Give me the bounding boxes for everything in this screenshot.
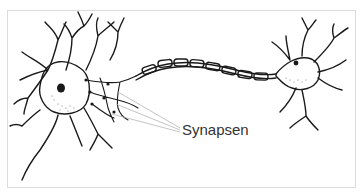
synapses-label: Synapsen <box>182 121 249 138</box>
right-dendrites <box>272 18 348 130</box>
left-neuron-soma <box>10 12 92 180</box>
right-neuron <box>272 18 348 130</box>
synapse-pointer-lines <box>112 92 180 132</box>
myelinated-axon <box>136 59 276 80</box>
left-dendrites-lower <box>70 108 112 150</box>
left-nucleus <box>57 84 65 93</box>
left-dendrites-upper <box>86 18 124 70</box>
left-neuron <box>10 12 124 180</box>
neuron-diagram <box>0 0 363 193</box>
right-nucleus <box>294 61 299 66</box>
